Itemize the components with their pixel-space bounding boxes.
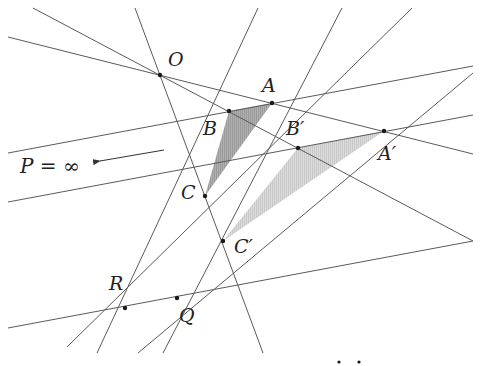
point-c [203,194,207,198]
label-b: B [202,117,217,139]
point-b-prime [296,146,300,150]
point-a [270,101,274,105]
line-o-c-c-prime [135,8,263,353]
label-a-prime: A′ [376,142,397,164]
label-q: Q [179,304,195,326]
point-o [158,73,162,77]
point-a-prime [382,129,386,133]
triangle-a-prime-b-prime-c-prime [223,131,384,241]
lines [8,8,473,353]
stray-dot [357,360,360,363]
arrow-to-infinity-icon [100,150,164,161]
label-o: O [168,48,184,70]
point-b [227,109,231,113]
label-p-infinity: P = ∞ [19,154,80,178]
line-b-prime-c-prime [67,8,412,347]
label-a: A [260,74,276,96]
label-c: C [181,181,196,203]
label-c-prime: C′ [234,235,254,257]
point-q [175,296,179,300]
label-r: R [108,272,123,294]
stray-dot [337,360,340,363]
label-b-prime: B′ [285,117,305,139]
point-c-prime [221,239,225,243]
desargues-diagram: O A B B′ A′ C C′ R Q P = ∞ [0,0,480,366]
diagram-canvas: O A B B′ A′ C C′ R Q P = ∞ [0,0,480,366]
point-r [123,306,127,310]
